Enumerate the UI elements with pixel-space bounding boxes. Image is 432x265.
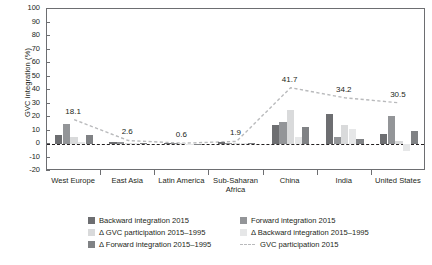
bar [109, 142, 116, 144]
bar [186, 144, 193, 145]
y-axis-tick-label: 90 [14, 18, 40, 26]
y-axis-tick-label: 80 [14, 31, 40, 39]
y-axis-tick [46, 157, 50, 158]
x-axis-tick [371, 170, 372, 175]
legend-color-swatch [240, 229, 247, 236]
bar [403, 144, 410, 151]
y-axis-tick-label: -10 [14, 153, 40, 161]
y-axis-tick-label: 100 [14, 4, 40, 12]
legend-item-label: Forward integration 2015 [251, 216, 335, 225]
y-axis-tick [46, 35, 50, 36]
y-axis-tick [46, 49, 50, 50]
bar [218, 142, 225, 144]
legend-item[interactable]: Δ GVC participation 2015–1995 [88, 228, 240, 237]
bar [272, 125, 279, 144]
y-axis-tick [46, 116, 50, 117]
bar [78, 142, 85, 144]
bar [125, 143, 132, 144]
y-axis-tick [46, 8, 50, 9]
legend-item-label: Δ Backward integration 2015–1995 [251, 228, 369, 237]
bar [248, 143, 255, 144]
bar [395, 141, 402, 144]
y-axis-tick-label: -20 [14, 166, 40, 174]
y-axis-tick [46, 130, 50, 131]
legend-item-label: Δ GVC participation 2015–1995 [99, 228, 205, 237]
bar [326, 114, 333, 144]
x-axis-tick [263, 170, 264, 175]
y-axis-tick-label: 70 [14, 45, 40, 53]
zero-line [47, 144, 424, 145]
bar [302, 127, 309, 144]
legend-item-label: Backward integration 2015 [99, 216, 189, 225]
gvc-participation-line [47, 9, 426, 171]
x-axis-category-label: East Asia [100, 176, 154, 185]
legend-color-swatch [88, 229, 95, 236]
bar [349, 129, 356, 144]
legend-line-swatch [240, 244, 255, 245]
y-axis-tick-label: 50 [14, 72, 40, 80]
bar [388, 116, 395, 144]
y-axis-title: GVC integration (%) [23, 8, 32, 158]
bar [380, 134, 387, 144]
legend-item-label: GVC participation 2015 [260, 240, 339, 249]
x-axis-category-label: China [263, 176, 317, 185]
data-point-label: 18.1 [57, 107, 89, 116]
bar [279, 122, 286, 144]
y-axis-tick [46, 76, 50, 77]
x-axis-category-label: India [317, 176, 371, 185]
y-axis-tick [46, 89, 50, 90]
bar [225, 143, 232, 144]
bar [295, 137, 302, 144]
bar [233, 143, 240, 144]
y-axis-tick-label: 40 [14, 85, 40, 93]
legend-item[interactable]: Δ Forward integration 2015–1995 [88, 240, 240, 249]
data-point-label: 2.6 [111, 127, 143, 136]
y-axis-tick [46, 170, 50, 171]
legend-item[interactable]: Backward integration 2015 [88, 216, 240, 225]
x-axis-category-label: Latin America [154, 176, 208, 185]
legend-item[interactable]: Δ Backward integration 2015–1995 [240, 228, 418, 237]
y-axis-tick [46, 103, 50, 104]
legend-item[interactable]: GVC participation 2015 [240, 240, 418, 249]
y-axis-tick [46, 62, 50, 63]
data-point-label: 30.5 [382, 90, 414, 99]
chart-legend: Backward integration 2015Forward integra… [88, 216, 418, 249]
x-axis-tick [208, 170, 209, 175]
legend-color-swatch [88, 217, 95, 224]
bar [86, 135, 93, 144]
data-point-label: 1.9 [220, 128, 252, 137]
plot-area [46, 8, 425, 170]
bar [411, 131, 418, 144]
legend-color-swatch [240, 217, 247, 224]
chart-figure: GVC integration (%) 10090807060504030201… [0, 0, 432, 265]
y-axis-tick-label: 0 [14, 139, 40, 147]
bar [241, 143, 248, 144]
bar [70, 137, 77, 144]
bar [194, 144, 201, 145]
x-axis-tick [100, 170, 101, 175]
legend-item-label: Δ Forward integration 2015–1995 [99, 240, 211, 249]
y-axis-tick-label: 30 [14, 99, 40, 107]
bar [287, 110, 294, 144]
y-axis-tick [46, 22, 50, 23]
legend-color-swatch [88, 241, 95, 248]
bar [117, 142, 124, 144]
legend-item[interactable]: Forward integration 2015 [240, 216, 418, 225]
x-axis-category-label: Sub-Saharan Africa [208, 176, 262, 194]
bar [334, 137, 341, 144]
x-axis-tick [154, 170, 155, 175]
x-axis-tick [317, 170, 318, 175]
bar [356, 139, 363, 144]
bar [164, 143, 171, 144]
bar [140, 143, 147, 144]
data-point-label: 34.2 [328, 85, 360, 94]
x-axis-category-label: West Europe [46, 176, 100, 185]
bar [179, 143, 186, 144]
bar [341, 125, 348, 144]
y-axis-tick-label: 20 [14, 112, 40, 120]
data-point-label: 41.7 [274, 75, 306, 84]
bar [132, 143, 139, 144]
bar [171, 143, 178, 144]
data-point-label: 0.6 [165, 130, 197, 139]
bar [55, 135, 62, 144]
